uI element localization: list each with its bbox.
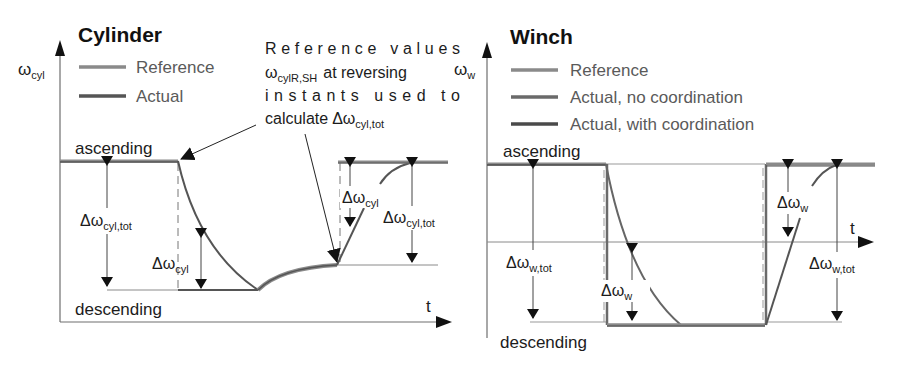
cylinder-level-ascending: ascending — [75, 139, 153, 158]
cylinder-title: Cylinder — [78, 23, 162, 46]
legend-label-no-coordination: Actual, no coordination — [570, 88, 743, 107]
legend-label-reference: Reference — [136, 58, 214, 77]
legend-label-actual: Actual — [136, 87, 183, 106]
svg-text:calculateΔωcyl,tot: calculateΔωcyl,tot — [265, 110, 384, 130]
cylinder-reference-curve-up — [258, 265, 337, 290]
legend-label-reference: Reference — [570, 61, 648, 80]
winch-legend: Reference Actual, no coordination Actual… — [511, 61, 754, 134]
svg-text:instants used to: instants used to — [265, 87, 460, 104]
cylinder-actual-curve-down — [178, 161, 258, 290]
cylinder-delta-left: Δωcyl — [152, 255, 189, 275]
cylinder-callout: Reference values ωcylR,SHat reversing in… — [265, 40, 460, 130]
svg-text:Reference values: Reference values — [265, 40, 460, 57]
winch-x-axis-label: t — [850, 219, 855, 238]
cylinder-y-axis-label: ωcyl — [18, 60, 45, 81]
winch-y-axis-label: ωw — [454, 60, 475, 81]
winch-x-axis-arrow-icon — [858, 236, 874, 248]
cylinder-panel: Cylinder ωcyl Reference Actual ascending… — [18, 23, 460, 328]
legend-label-with-coordination: Actual, with coordination — [570, 115, 754, 134]
winch-title: Winch — [510, 25, 573, 48]
svg-text:ωcylR,SHat reversing: ωcylR,SHat reversing — [265, 64, 407, 84]
winch-level-ascending: ascending — [503, 142, 581, 161]
callout-arrow-2 — [305, 134, 337, 262]
cylinder-legend: Reference Actual — [79, 58, 214, 106]
diagram-canvas: Cylinder ωcyl Reference Actual ascending… — [0, 0, 900, 370]
cylinder-x-axis-arrow-icon — [436, 316, 452, 328]
winch-no-coordination-rise — [766, 218, 800, 325]
cylinder-level-descending: descending — [75, 300, 162, 319]
callout-arrow-1 — [181, 125, 256, 159]
cylinder-x-axis-label: t — [426, 297, 431, 316]
cylinder-y-axis-arrow-icon — [55, 40, 65, 56]
winch-y-axis-arrow-icon — [482, 42, 492, 58]
winch-panel: Winch ωw Reference Actual, no coordinati… — [454, 25, 880, 352]
winch-level-descending: descending — [500, 333, 587, 352]
